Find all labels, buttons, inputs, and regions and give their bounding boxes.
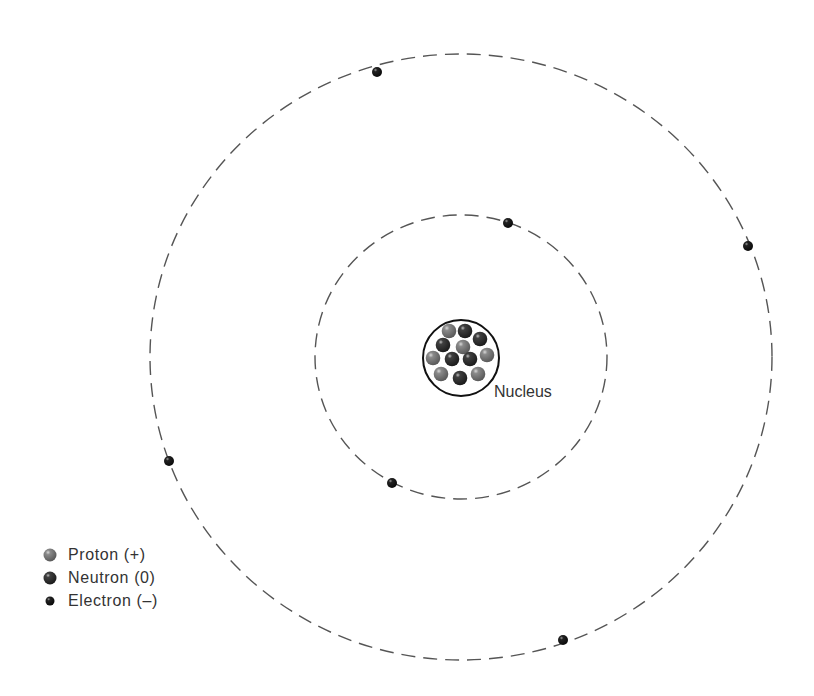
neutron-particle [458, 324, 473, 339]
electron [372, 67, 382, 77]
electron-icon [38, 596, 62, 606]
nucleus-label: Nucleus [494, 383, 552, 400]
legend-item-neutron: Neutron (0) [38, 566, 158, 589]
proton-particle [426, 351, 441, 366]
legend-label-neutron: Neutron (0) [68, 569, 156, 587]
neutron-particle [463, 352, 478, 367]
legend-label-proton: Proton (+) [68, 546, 146, 564]
nucleus [423, 320, 499, 396]
neutron-particle [453, 371, 468, 386]
electron [503, 218, 513, 228]
legend-label-electron: Electron (–) [68, 592, 158, 610]
neutron-particle [445, 352, 460, 367]
legend: Proton (+) Neutron (0) Electron (–) [38, 543, 158, 612]
proton-particle [434, 367, 449, 382]
proton-particle [442, 324, 457, 339]
neutron-particle [473, 332, 488, 347]
neutron-particle [436, 338, 451, 353]
electron [164, 456, 174, 466]
proton-icon [38, 548, 62, 562]
neutron-icon [38, 571, 62, 585]
electron [387, 478, 397, 488]
legend-item-electron: Electron (–) [38, 589, 158, 612]
legend-item-proton: Proton (+) [38, 543, 158, 566]
proton-particle [471, 367, 486, 382]
electron [558, 635, 568, 645]
proton-particle [480, 348, 495, 363]
electron [743, 241, 753, 251]
